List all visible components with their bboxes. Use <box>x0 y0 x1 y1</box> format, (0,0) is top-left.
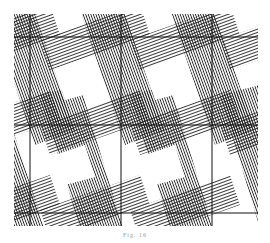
pattern-area <box>0 0 270 230</box>
woven-lattice-diagram <box>0 0 270 230</box>
figure-caption: Fig. 16 <box>0 232 270 238</box>
